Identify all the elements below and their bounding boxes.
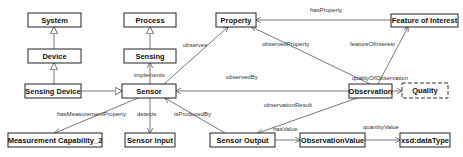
node-label: Feature of Interest [392,16,458,25]
node-label: Sensing [135,52,165,61]
node-label: xsd:dataType [401,136,449,145]
ontology-diagram: implementsobserveshasPropertyobservedPro… [0,0,463,157]
node-label: Sensor Input [127,136,173,145]
node-observation-value[interactable]: ObservationValue [300,133,365,147]
node-label: Process [135,16,164,25]
edge-label: observes [183,42,207,48]
edge-observed-by: observedBy [176,74,349,91]
node-system[interactable]: System [28,13,81,27]
node-xsd-datatype[interactable]: xsd:dataType [400,133,450,147]
node-process[interactable]: Process [124,13,176,27]
node-measurement-capability[interactable]: Measurement Capability_2 [8,133,103,147]
edge-detects: detects [137,98,156,133]
node-label: Sensor [136,87,162,96]
edge-label: detects [137,111,156,117]
edge-label: hasProperty [310,7,342,13]
node-observation[interactable]: Observation [349,84,393,98]
node-feature-of-interest[interactable]: Feature of Interest [391,14,458,27]
node-sensor-input[interactable]: Sensor Input [125,133,175,147]
node-quality[interactable]: Quality [402,83,448,98]
node-sensor-output[interactable]: Sensor Output [210,133,275,147]
edge-label: isProducedBy [174,111,211,117]
edge-label: featureOfInterest [350,41,395,47]
edge-label: observedBy [226,74,258,80]
edge-has-measurement-property: hasMeasurementProperty [55,98,138,133]
node-label: Observation [349,87,393,96]
node-label: Quality [412,86,438,95]
node-label: Sensor Output [216,136,269,145]
node-label: Device [42,52,66,61]
edge-label: hasValue [273,126,298,132]
node-label: Measurement Capability_2 [8,136,103,145]
edge-label: hasMeasurementProperty [57,111,126,117]
node-device[interactable]: Device [28,49,81,63]
node-label: Sensing Device [25,87,80,96]
edge-implements: implements [134,63,165,84]
edge-is-produced-by: isProducedBy [165,98,225,133]
node-sensing[interactable]: Sensing [124,49,176,63]
node-label: Property [221,16,253,25]
edge-label: implements [134,72,165,78]
node-sensing-device[interactable]: Sensing Device [25,84,81,98]
node-label: System [41,16,68,25]
edge-has-property: hasProperty [256,7,391,20]
edge-label: quantityValue [363,124,400,130]
edge-has-value: hasValue [273,126,300,140]
node-sensor[interactable]: Sensor [122,84,176,98]
node-property[interactable]: Property [216,13,256,27]
edge-quantity-value: quantityValue [363,124,400,140]
edge-label: observedProperty [262,41,309,47]
node-label: ObservationValue [301,136,364,145]
edge-label: qualityOfObservation [352,75,408,81]
edge-label: observationResult [264,102,312,108]
